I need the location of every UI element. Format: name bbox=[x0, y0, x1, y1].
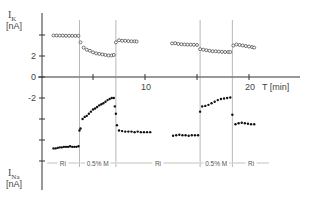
ik-data-point bbox=[232, 44, 235, 47]
y-tick-label: -2 bbox=[28, 93, 36, 103]
segment-label: Ri bbox=[248, 160, 254, 167]
chart: 1020T [min]02IK[nA]-2INa[nA]Ri0.5% MRi0.… bbox=[0, 0, 317, 201]
ina-data-point bbox=[63, 146, 65, 148]
ik-data-point bbox=[92, 51, 95, 54]
ik-data-point bbox=[183, 43, 186, 46]
ina-data-point bbox=[130, 130, 132, 132]
ik-data-point bbox=[217, 50, 220, 53]
ik-data-point bbox=[205, 49, 208, 52]
y-tick-label: 0 bbox=[31, 72, 36, 82]
data-points bbox=[52, 34, 256, 150]
ik-data-point bbox=[127, 40, 130, 43]
ina-data-point bbox=[54, 147, 56, 149]
ina-data-point bbox=[88, 113, 90, 115]
ik-data-point bbox=[220, 50, 223, 53]
ik-data-point bbox=[107, 54, 110, 57]
ik-data-point bbox=[180, 43, 183, 46]
ina-data-point bbox=[137, 130, 139, 132]
ina-data-point bbox=[204, 105, 206, 107]
ina-data-point bbox=[187, 135, 189, 137]
ina-data-point bbox=[234, 123, 236, 125]
ina-data-point bbox=[149, 131, 151, 133]
ina-data-point bbox=[77, 145, 79, 147]
ina-data-point bbox=[247, 123, 249, 125]
ina-data-point bbox=[207, 104, 209, 106]
ik-data-point bbox=[121, 39, 124, 42]
ina-data-point bbox=[146, 131, 148, 133]
ik-data-point bbox=[130, 40, 133, 43]
y-tick-label: 2 bbox=[31, 51, 36, 61]
ik-data-point bbox=[74, 34, 77, 37]
ina-data-point bbox=[191, 134, 193, 136]
ina-data-point bbox=[210, 102, 212, 104]
ik-data-point bbox=[98, 52, 101, 55]
ik-data-point bbox=[61, 34, 64, 37]
ina-data-point bbox=[220, 98, 222, 100]
ina-data-point bbox=[178, 134, 180, 136]
segment-label: 0.5% M bbox=[205, 160, 227, 167]
x-tick-label: 10 bbox=[141, 82, 151, 92]
ina-data-point bbox=[114, 105, 116, 107]
ina-data-point bbox=[237, 122, 239, 124]
ik-data-point bbox=[85, 48, 88, 51]
ik-data-point bbox=[177, 42, 180, 45]
ina-data-point bbox=[217, 99, 219, 101]
ina-data-point bbox=[67, 146, 69, 148]
ina-data-point bbox=[127, 130, 129, 132]
ina-data-point bbox=[106, 99, 108, 101]
ik-data-point bbox=[64, 34, 67, 37]
ik-data-point bbox=[55, 34, 58, 37]
axis-unit-label: [nA] bbox=[6, 179, 22, 189]
ik-data-point bbox=[189, 43, 192, 46]
ik-data-point bbox=[224, 51, 227, 54]
ina-data-point bbox=[121, 130, 123, 132]
axis-unit-label: [nA] bbox=[6, 21, 22, 31]
ina-data-point bbox=[199, 110, 201, 112]
ina-data-point bbox=[124, 130, 126, 132]
ik-data-point bbox=[77, 34, 80, 37]
ik-data-point bbox=[71, 34, 74, 37]
ina-data-point bbox=[244, 122, 246, 124]
ina-data-point bbox=[175, 134, 177, 136]
ik-data-point bbox=[186, 43, 189, 46]
ina-data-point bbox=[71, 146, 73, 148]
ik-data-point bbox=[235, 43, 238, 46]
ik-data-point bbox=[68, 34, 71, 37]
ik-data-point bbox=[238, 43, 241, 46]
ina-data-point bbox=[92, 108, 94, 110]
ina-data-point bbox=[59, 146, 61, 148]
ina-data-point bbox=[133, 131, 135, 133]
ina-data-point bbox=[65, 146, 67, 148]
ina-data-point bbox=[140, 131, 142, 133]
ik-data-point bbox=[214, 50, 217, 53]
axes bbox=[38, 13, 300, 190]
ina-data-point bbox=[226, 97, 228, 99]
ik-data-point bbox=[88, 49, 91, 52]
ik-data-point bbox=[82, 46, 85, 49]
ina-data-point bbox=[111, 97, 113, 99]
ik-data-point bbox=[79, 41, 82, 44]
ina-data-point bbox=[115, 113, 117, 115]
ik-data-point bbox=[135, 40, 138, 43]
ina-data-point bbox=[69, 145, 71, 147]
ik-data-point bbox=[248, 45, 251, 48]
ina-data-point bbox=[143, 131, 145, 133]
ik-data-point bbox=[112, 53, 115, 56]
ina-data-point bbox=[98, 104, 100, 106]
ik-data-point bbox=[202, 48, 205, 51]
ina-data-point bbox=[102, 102, 104, 104]
ina-data-point bbox=[197, 134, 199, 136]
ina-data-point bbox=[52, 147, 54, 149]
ina-data-point bbox=[90, 110, 92, 112]
ina-data-point bbox=[108, 98, 110, 100]
ina-data-point bbox=[229, 96, 231, 98]
ina-data-point bbox=[250, 123, 252, 125]
ik-data-point bbox=[199, 48, 202, 51]
ina-data-point bbox=[75, 146, 77, 148]
x-tick-label: 20 bbox=[245, 82, 255, 92]
ina-data-point bbox=[56, 147, 58, 149]
ina-data-point bbox=[96, 106, 98, 108]
ina-data-point bbox=[94, 107, 96, 109]
ik-data-point bbox=[253, 46, 256, 49]
ik-data-point bbox=[211, 50, 214, 53]
